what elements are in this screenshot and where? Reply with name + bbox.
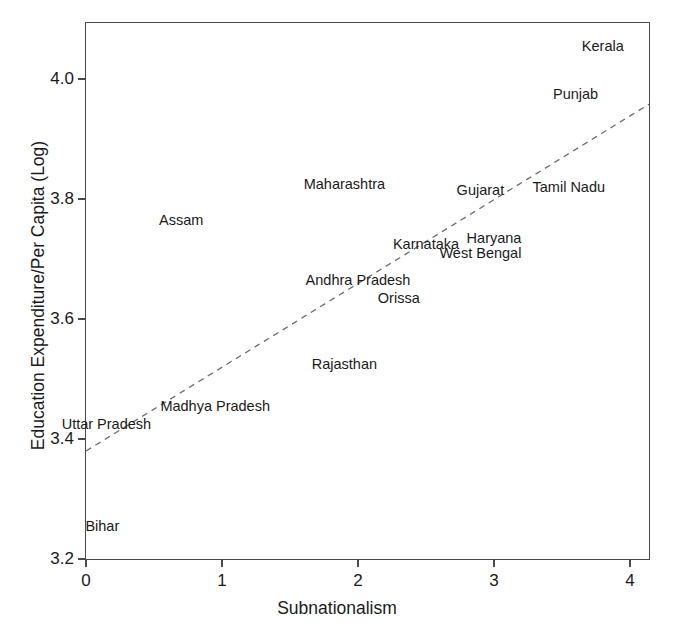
point-label-assam: Assam [159,213,203,228]
x-tick-label-0: 0 [66,571,106,591]
point-label-rajasthan: Rajasthan [312,357,377,372]
x-tick-3 [493,560,494,567]
point-label-gujarat: Gujarat [457,183,505,198]
point-label-bihar: Bihar [85,519,119,534]
x-tick-label-2: 2 [338,571,378,591]
y-tick-4.0 [78,78,85,79]
x-axis-title: Subnationalism [0,598,674,619]
x-tick-2 [357,560,358,567]
x-tick-label-4: 4 [610,571,650,591]
y-tick-3.2 [78,558,85,559]
point-label-andhra-pradesh: Andhra Pradesh [306,273,411,288]
plot-area-frame [85,22,650,560]
x-tick-1 [221,560,222,567]
point-label-punjab: Punjab [553,87,598,102]
point-label-maharashtra: Maharashtra [304,177,385,192]
x-tick-0 [85,560,86,567]
scatter-plot-figure: 01234 4.03.83.63.43.2 BiharUttar Pradesh… [0,0,674,636]
point-label-haryana: Haryana [467,231,522,246]
point-label-kerala: Kerala [582,39,624,54]
point-label-madhya-pradesh: Madhya Pradesh [160,399,270,414]
point-label-uttar-pradesh: Uttar Pradesh [62,417,151,432]
y-tick-3.4 [78,438,85,439]
point-label-orissa: Orissa [378,291,420,306]
y-tick-3.8 [78,198,85,199]
y-tick-3.6 [78,318,85,319]
x-tick-4 [629,560,630,567]
x-tick-label-3: 3 [474,571,514,591]
y-axis-title: Education Expenditure/Per Capita (Log) [28,16,49,576]
point-label-tamil-nadu: Tamil Nadu [533,180,606,195]
point-label-west-bengal: West Bengal [439,246,521,261]
x-tick-label-1: 1 [202,571,242,591]
